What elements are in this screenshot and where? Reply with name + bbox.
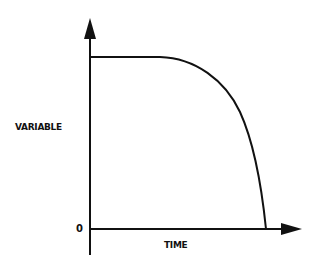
x-axis-label: TIME [164, 240, 187, 250]
origin-label: 0 [76, 223, 83, 234]
y-axis-label: VARIABLE [15, 122, 62, 132]
y-axis-arrow-icon [84, 18, 96, 39]
chart-canvas [0, 0, 321, 270]
x-axis-arrow-icon [281, 223, 302, 235]
variable-curve [90, 57, 266, 229]
